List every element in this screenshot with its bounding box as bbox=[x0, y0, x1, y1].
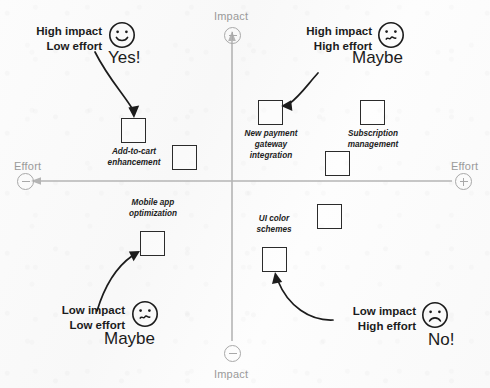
item-box[interactable] bbox=[360, 100, 385, 125]
item-box[interactable] bbox=[121, 118, 146, 143]
impact-effort-matrix: Impact Impact Effort Effort Add-to-cart … bbox=[0, 0, 490, 388]
arrow-low-impact-high-effort bbox=[272, 272, 333, 320]
callout-verdict: Yes! bbox=[108, 48, 140, 68]
item-label: Subscription management bbox=[324, 129, 422, 151]
smiley-sad-icon bbox=[421, 301, 449, 329]
effort-axis-left-label: Effort bbox=[14, 160, 41, 172]
callout-verdict: Maybe bbox=[352, 48, 403, 68]
callout-text-secondary: High effort bbox=[336, 319, 416, 334]
callout-verdict: No! bbox=[428, 330, 454, 350]
callout-verdict: Maybe bbox=[104, 329, 155, 349]
callout-text: Low impact bbox=[336, 304, 416, 319]
item-box[interactable] bbox=[325, 151, 350, 176]
smiley-unsure-icon bbox=[131, 300, 159, 328]
effort-minus-icon bbox=[17, 173, 34, 190]
callout-text: High impact bbox=[292, 24, 372, 39]
smiley-happy-icon bbox=[108, 21, 136, 49]
item-box[interactable] bbox=[258, 100, 283, 125]
item-label: New payment gateway integration bbox=[221, 129, 321, 161]
callout-text: High impact bbox=[22, 24, 102, 39]
effort-axis-right-label: Effort bbox=[451, 160, 478, 172]
item-label: UI color schemes bbox=[224, 214, 324, 236]
item-box[interactable] bbox=[262, 247, 287, 272]
callout-text-secondary: Low effort bbox=[22, 39, 102, 54]
callout-text: Low impact bbox=[45, 303, 125, 318]
impact-plus-icon bbox=[224, 27, 241, 44]
smiley-unsure-icon bbox=[377, 21, 405, 49]
impact-axis-top-label: Impact bbox=[214, 10, 248, 22]
arrow-high-impact-high-effort bbox=[281, 73, 318, 111]
impact-axis-bottom-label: Impact bbox=[214, 368, 248, 380]
impact-minus-icon bbox=[224, 345, 241, 362]
item-box[interactable] bbox=[140, 231, 165, 256]
item-label: Mobile app optimization bbox=[102, 198, 204, 220]
item-box[interactable] bbox=[172, 145, 197, 170]
effort-plus-icon bbox=[455, 173, 472, 190]
